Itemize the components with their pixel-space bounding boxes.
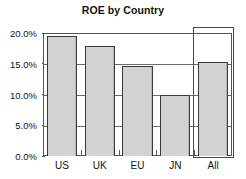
bar-group-all bbox=[194, 33, 232, 156]
bar-series bbox=[43, 33, 232, 156]
x-axis-tick-label: JN bbox=[169, 160, 181, 171]
chart-title: ROE by Country bbox=[0, 4, 246, 16]
y-axis-tick-label: 20.0% bbox=[10, 28, 37, 39]
y-axis-tick-label: 10.0% bbox=[10, 89, 37, 100]
x-axis-tick-label: UK bbox=[93, 160, 107, 171]
bar-all[interactable] bbox=[198, 62, 228, 156]
bar-uk[interactable] bbox=[85, 46, 115, 156]
x-axis-tick-mark bbox=[81, 150, 82, 156]
x-axis-tick-mark bbox=[194, 150, 195, 156]
x-axis-tick-mark bbox=[156, 150, 157, 156]
bar-group-uk bbox=[81, 33, 119, 156]
bar-group-eu bbox=[119, 33, 157, 156]
y-axis-tick-label: 15.0% bbox=[10, 58, 37, 69]
x-axis-tick-mark bbox=[119, 150, 120, 156]
bar-us[interactable] bbox=[47, 36, 77, 156]
y-axis-tick-label: 0.0% bbox=[15, 151, 37, 162]
bar-jn[interactable] bbox=[160, 95, 190, 157]
x-axis-tick-label: All bbox=[208, 160, 219, 171]
y-axis-tick-label: 5.0% bbox=[15, 120, 37, 131]
x-axis: USUKEUJNAll bbox=[43, 160, 232, 176]
x-axis-tick-label: EU bbox=[131, 160, 145, 171]
x-axis-tick-label: US bbox=[55, 160, 69, 171]
y-axis: 0.0%5.0%10.0%15.0%20.0% bbox=[0, 33, 41, 156]
bar-group-jn bbox=[156, 33, 194, 156]
chart-container: ROE by Country 0.0%5.0%10.0%15.0%20.0% U… bbox=[0, 0, 246, 179]
bar-group-us bbox=[43, 33, 81, 156]
bar-eu[interactable] bbox=[122, 66, 152, 156]
